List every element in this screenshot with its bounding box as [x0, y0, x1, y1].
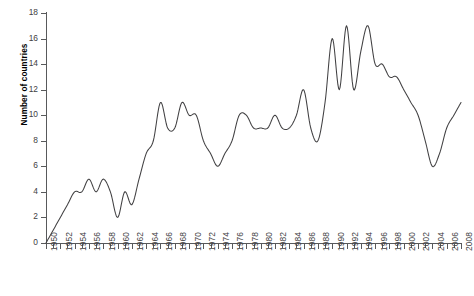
- y-tick-6: [41, 166, 46, 167]
- x-tick-1968: [175, 244, 176, 249]
- x-tick-label-1998: 1998: [393, 232, 403, 251]
- x-tick-2004: [432, 244, 433, 249]
- y-tick-label-12: 12: [0, 84, 38, 94]
- x-tick-label-1956: 1956: [92, 232, 102, 251]
- x-tick-1964: [146, 244, 147, 249]
- x-tick-label-1978: 1978: [250, 232, 260, 251]
- y-tick-label-4: 4: [0, 186, 38, 196]
- y-tick-label-8: 8: [0, 135, 38, 145]
- x-tick-label-1960: 1960: [121, 232, 131, 251]
- y-tick-label-18: 18: [0, 7, 38, 17]
- x-tick-1974: [218, 244, 219, 249]
- y-tick-4: [41, 192, 46, 193]
- x-tick-label-1970: 1970: [193, 232, 203, 251]
- y-tick-16: [41, 39, 46, 40]
- x-tick-label-1952: 1952: [64, 232, 74, 251]
- x-tick-label-1980: 1980: [264, 232, 274, 251]
- x-tick-label-1958: 1958: [107, 232, 117, 251]
- x-tick-label-1976: 1976: [235, 232, 245, 251]
- x-tick-1998: [389, 244, 390, 249]
- x-tick-1986: [304, 244, 305, 249]
- series-polyline: [46, 26, 461, 243]
- x-tick-label-1984: 1984: [293, 232, 303, 251]
- y-tick-14: [41, 64, 46, 65]
- x-tick-label-1962: 1962: [135, 232, 145, 251]
- x-tick-label-1972: 1972: [207, 232, 217, 251]
- x-tick-label-1990: 1990: [336, 232, 346, 251]
- x-tick-1960: [118, 244, 119, 249]
- x-tick-1966: [160, 244, 161, 249]
- x-tick-label-1968: 1968: [178, 232, 188, 251]
- y-tick-label-10: 10: [0, 109, 38, 119]
- x-tick-1992: [347, 244, 348, 249]
- y-tick-2: [41, 217, 46, 218]
- x-tick-label-1996: 1996: [379, 232, 389, 251]
- x-tick-label-2008: 2008: [464, 232, 474, 251]
- x-tick-1994: [361, 244, 362, 249]
- y-tick-label-6: 6: [0, 160, 38, 170]
- x-tick-1976: [232, 244, 233, 249]
- x-tick-1954: [75, 244, 76, 249]
- x-tick-label-1954: 1954: [78, 232, 88, 251]
- x-tick-2006: [447, 244, 448, 249]
- x-tick-label-1986: 1986: [307, 232, 317, 251]
- y-tick-label-0: 0: [0, 237, 38, 247]
- x-tick-1972: [203, 244, 204, 249]
- x-tick-2008: [461, 244, 462, 249]
- x-tick-label-1994: 1994: [364, 232, 374, 251]
- x-tick-1978: [246, 244, 247, 249]
- x-tick-label-1974: 1974: [221, 232, 231, 251]
- x-tick-2002: [418, 244, 419, 249]
- x-tick-1970: [189, 244, 190, 249]
- y-tick-label-14: 14: [0, 58, 38, 68]
- y-tick-label-16: 16: [0, 33, 38, 43]
- x-tick-1988: [318, 244, 319, 249]
- x-tick-label-2000: 2000: [407, 232, 417, 251]
- x-tick-label-1982: 1982: [278, 232, 288, 251]
- x-tick-label-2004: 2004: [436, 232, 446, 251]
- y-tick-label-2: 2: [0, 211, 38, 221]
- y-tick-10: [41, 115, 46, 116]
- x-tick-2000: [404, 244, 405, 249]
- x-tick-1984: [289, 244, 290, 249]
- x-tick-1980: [261, 244, 262, 249]
- y-tick-12: [41, 90, 46, 91]
- x-tick-1950: [46, 244, 47, 249]
- x-tick-label-1950: 1950: [49, 232, 59, 251]
- x-tick-1956: [89, 244, 90, 249]
- x-tick-label-1964: 1964: [150, 232, 160, 251]
- x-tick-1982: [275, 244, 276, 249]
- y-axis-line: [46, 12, 47, 244]
- x-tick-label-1988: 1988: [321, 232, 331, 251]
- x-tick-1996: [375, 244, 376, 249]
- x-tick-label-2006: 2006: [450, 232, 460, 251]
- x-tick-label-2002: 2002: [421, 232, 431, 251]
- x-tick-label-1992: 1992: [350, 232, 360, 251]
- y-tick-18: [41, 13, 46, 14]
- y-tick-8: [41, 141, 46, 142]
- x-tick-1958: [103, 244, 104, 249]
- x-tick-1952: [60, 244, 61, 249]
- x-tick-1962: [132, 244, 133, 249]
- x-tick-1990: [332, 244, 333, 249]
- x-tick-label-1966: 1966: [164, 232, 174, 251]
